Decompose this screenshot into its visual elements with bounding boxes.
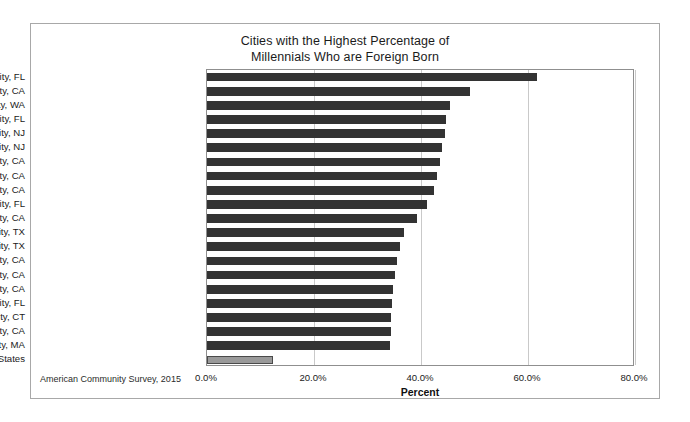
bar-row <box>207 143 633 152</box>
category-label: Stamford city, CT <box>0 311 25 322</box>
bar <box>207 228 404 237</box>
category-label: Santa Ana city, CA <box>0 254 25 265</box>
category-label: Irvine city, CA <box>0 269 25 280</box>
category-label: Miami Beach city, FL <box>0 198 25 209</box>
category-label: Elizabeth city, NJ <box>0 127 25 138</box>
bar-row <box>207 115 633 124</box>
bar <box>207 158 440 167</box>
category-label: Miami city, FL <box>0 113 25 124</box>
bar-row <box>207 87 633 96</box>
chart-title: Cities with the Highest Percentage of Mi… <box>31 33 659 65</box>
bar <box>207 143 442 152</box>
bar-row <box>207 327 633 336</box>
bar <box>207 129 445 138</box>
bar-row <box>207 172 633 181</box>
bar-row <box>207 158 633 167</box>
bar <box>207 172 437 181</box>
bar <box>207 327 391 336</box>
bar <box>207 214 417 223</box>
category-label: Fremont city, CA <box>0 170 25 181</box>
bar-series <box>207 70 633 365</box>
category-label: Glendale city, CA <box>0 184 25 195</box>
bar <box>207 200 427 209</box>
chart-title-line-2: Millennials Who are Foreign Born <box>31 49 659 65</box>
category-label: Irving city, TX <box>0 240 25 251</box>
bar <box>207 115 446 124</box>
bar-row <box>207 73 633 82</box>
x-tick-label: 0.0% <box>195 372 217 383</box>
category-label: Salinas city, CA <box>0 325 25 336</box>
bar-row <box>207 257 633 266</box>
bar <box>207 242 400 251</box>
x-axis-title: Percent <box>206 386 634 398</box>
x-tick-label: 40.0% <box>406 372 433 383</box>
bar <box>207 341 390 350</box>
bar <box>207 257 397 266</box>
plot-wrap <box>206 69 634 366</box>
bar <box>207 186 434 195</box>
category-axis-labels: Hialeah city, FLSunnyvale city, CABellev… <box>0 69 29 366</box>
gridline-80.0% <box>635 70 636 365</box>
bar-row <box>207 200 633 209</box>
category-label: Richardson city, TX <box>0 226 25 237</box>
category-label: Richmond city, CA <box>0 212 25 223</box>
bar-row <box>207 186 633 195</box>
bar-row <box>207 228 633 237</box>
bar <box>207 285 393 294</box>
bar <box>207 73 537 82</box>
bar-row <box>207 101 633 110</box>
category-label: Santa Clara city, CA <box>0 155 25 166</box>
chart-title-line-1: Cities with the Highest Percentage of <box>31 33 659 49</box>
plot-area <box>206 69 634 366</box>
bar <box>207 313 391 322</box>
bar <box>207 87 470 96</box>
source-note: American Community Survey, 2015 <box>40 374 181 384</box>
x-tick-label: 20.0% <box>299 372 326 383</box>
bar-row <box>207 341 633 350</box>
category-label: Bellevue city, WA <box>0 99 25 110</box>
bar-row <box>207 271 633 280</box>
bar-row <box>207 129 633 138</box>
category-label: San Mateo city, CA <box>0 283 25 294</box>
bar <box>207 299 392 308</box>
x-tick-label: 80.0% <box>620 372 647 383</box>
bar-row <box>207 214 633 223</box>
bar-row <box>207 242 633 251</box>
bar-row <box>207 356 633 365</box>
bar <box>207 356 273 365</box>
bar <box>207 101 450 110</box>
bar-row <box>207 285 633 294</box>
x-tick-label: 60.0% <box>513 372 540 383</box>
category-label: Plantation city, FL <box>0 297 25 308</box>
bar-row <box>207 313 633 322</box>
bar <box>207 271 395 280</box>
category-label: United States <box>0 353 25 364</box>
chart-figure: Cities with the Highest Percentage of Mi… <box>30 23 660 399</box>
bar-row <box>207 299 633 308</box>
category-label: Sunnyvale city, CA <box>0 85 25 96</box>
category-label: Jersey City city, NJ <box>0 141 25 152</box>
category-label: Lowell city, MA <box>0 339 25 350</box>
category-label: Hialeah city, FL <box>0 71 25 82</box>
